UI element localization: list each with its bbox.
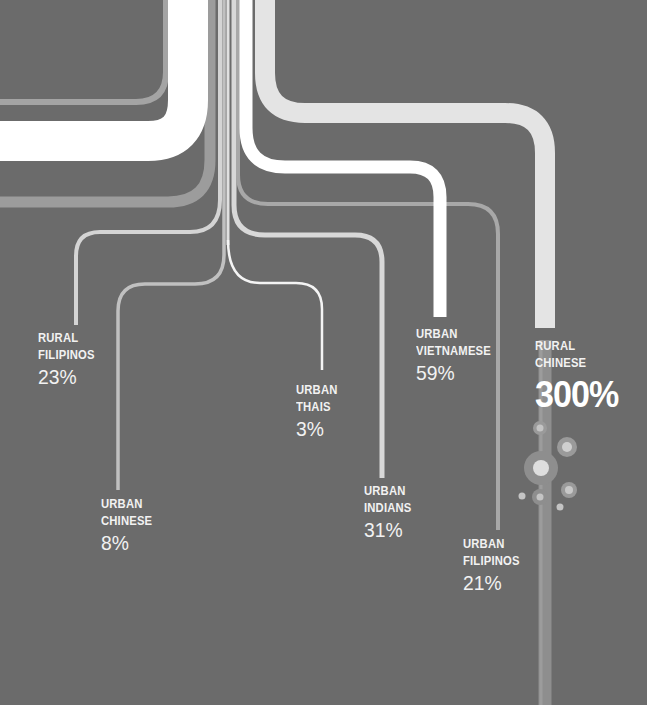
- label-line2: CHINESE: [535, 355, 617, 372]
- bubble-icon: [557, 504, 564, 511]
- label-value: 3%: [296, 418, 338, 439]
- label-line1: URBAN: [364, 483, 412, 500]
- label-rural-filipinos: RURAL FILIPINOS 23%: [38, 330, 101, 387]
- label-value: 31%: [364, 519, 413, 540]
- label-urban-chinese: URBAN CHINESE 8%: [101, 496, 158, 553]
- label-line1: URBAN: [296, 382, 338, 399]
- label-line2: VIETNAMESE: [416, 343, 491, 360]
- label-line1: URBAN: [463, 536, 520, 553]
- flow-line-urban-thais: [228, 240, 322, 370]
- label-line2: THAIS: [296, 399, 338, 416]
- flow-line-top-left-thin: [0, 0, 166, 102]
- flow-line-left-white-band: [0, 0, 188, 141]
- label-value: 8%: [101, 532, 153, 553]
- bubble-icon: [519, 493, 526, 500]
- label-value: 21%: [463, 572, 521, 593]
- label-line2: INDIANS: [364, 500, 412, 517]
- label-line1: URBAN: [416, 326, 491, 343]
- label-line2: FILIPINOS: [38, 347, 95, 364]
- label-urban-filipinos: URBAN FILIPINOS 21%: [463, 536, 526, 593]
- label-urban-indians: URBAN INDIANS 31%: [364, 483, 417, 540]
- label-urban-vietnamese: URBAN VIETNAMESE 59%: [416, 326, 499, 383]
- label-value: 300%: [535, 376, 618, 413]
- label-line2: FILIPINOS: [463, 553, 520, 570]
- label-value: 23%: [38, 366, 96, 387]
- flow-line-urban-filipinos: [238, 0, 498, 530]
- label-value: 59%: [416, 362, 493, 383]
- label-line1: URBAN: [101, 496, 152, 513]
- label-line2: CHINESE: [101, 513, 152, 530]
- flow-line-urban-vietnamese: [246, 0, 440, 317]
- label-line1: RURAL: [535, 338, 617, 355]
- label-rural-chinese: RURAL CHINESE 300%: [535, 338, 626, 413]
- label-line1: RURAL: [38, 330, 95, 347]
- label-urban-thais: URBAN THAIS 3%: [296, 382, 342, 439]
